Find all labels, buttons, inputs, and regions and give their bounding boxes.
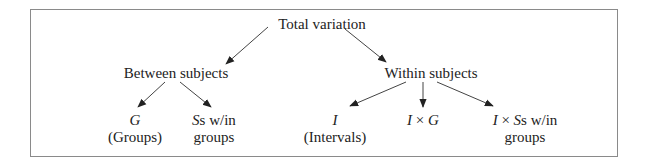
arrow-total-to-between — [226, 27, 268, 64]
arrow-within-to-ixss — [437, 82, 493, 106]
i-symbol: I — [333, 112, 338, 128]
node-groups: G (Groups) — [108, 112, 162, 146]
ss-win-text: s w/in — [200, 112, 236, 128]
between-subjects-label: Between subjects — [124, 65, 229, 81]
groups-caption: (Groups) — [108, 129, 162, 146]
ss-win-text: s w/in — [521, 112, 557, 128]
within-subjects-label: Within subjects — [384, 65, 477, 81]
node-i-x-g: I × G — [407, 112, 439, 129]
node-ss-within-groups: Ss w/in groups — [192, 112, 236, 146]
arrow-total-to-within — [345, 29, 386, 62]
groups-caption: groups — [493, 129, 558, 146]
arrow-between-to-g — [138, 82, 165, 107]
g-symbol: G — [130, 112, 141, 128]
s-symbol: S — [192, 112, 200, 128]
g-symbol: G — [428, 112, 439, 128]
intervals-caption: (Intervals) — [304, 129, 366, 146]
times-symbol: × — [498, 112, 514, 128]
total-variation-label: Total variation — [278, 16, 366, 32]
groups-caption: groups — [192, 129, 236, 146]
arrow-between-to-ss — [180, 82, 211, 107]
node-total-variation: Total variation — [278, 16, 366, 33]
times-symbol: × — [412, 112, 428, 128]
arrow-within-to-i — [350, 82, 406, 106]
node-within-subjects: Within subjects — [384, 65, 477, 82]
node-i-x-ss-within-groups: I × Ss w/in groups — [493, 112, 558, 146]
node-intervals: I (Intervals) — [304, 112, 366, 146]
node-between-subjects: Between subjects — [124, 65, 229, 82]
